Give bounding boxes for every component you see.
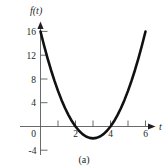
y-axis-arrow-icon	[37, 22, 43, 30]
figure-caption: (a)	[78, 154, 89, 166]
y-tick-label-12: 12	[27, 51, 37, 61]
figure-container: 16 12 8 4 0 -4 2 4 6 f(t) t (a)	[0, 0, 168, 167]
x-axis-label: t	[159, 121, 162, 132]
y-tick-label-16: 16	[27, 27, 37, 37]
plot-svg: 16 12 8 4 0 -4 2 4 6 f(t) t (a)	[0, 0, 168, 167]
y-tick-label-8: 8	[31, 75, 36, 85]
y-axis-label: f(t)	[30, 5, 43, 17]
y-tick-label-minus4: -4	[29, 146, 37, 156]
y-tick-label-0: 0	[31, 129, 36, 139]
x-tick-label-6: 6	[143, 129, 148, 139]
x-axis-arrow-icon	[148, 123, 156, 129]
y-tick-label-4: 4	[31, 98, 36, 108]
